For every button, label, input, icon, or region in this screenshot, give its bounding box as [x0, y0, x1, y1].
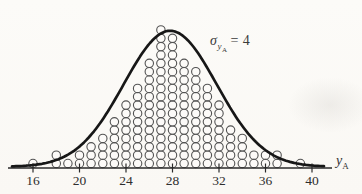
data-point-circle	[145, 134, 153, 142]
data-point-circle	[180, 93, 188, 101]
data-point-circle	[192, 151, 200, 159]
data-point-circle	[180, 101, 188, 109]
data-point-circle	[192, 109, 200, 117]
data-point-circle	[203, 93, 211, 101]
data-point-circle	[192, 118, 200, 126]
data-point-circle	[145, 68, 153, 76]
data-point-circle	[157, 126, 165, 134]
data-point-circle	[122, 118, 130, 126]
data-point-circle	[180, 134, 188, 142]
data-point-circle	[168, 93, 176, 101]
data-point-circle	[122, 101, 130, 109]
data-point-circle	[250, 159, 258, 167]
data-point-circle	[168, 34, 176, 42]
data-point-circle	[157, 59, 165, 67]
data-point-circle	[180, 143, 188, 151]
data-point-circle	[157, 42, 165, 50]
data-point-circle	[168, 68, 176, 76]
x-tick-label: 24	[119, 173, 133, 188]
data-point-circle	[99, 143, 107, 151]
sigma-annotation: σyA= 4	[210, 33, 250, 54]
data-point-circle	[64, 159, 72, 167]
data-point-circle	[157, 159, 165, 167]
data-point-circle	[99, 151, 107, 159]
data-point-circle	[157, 51, 165, 59]
data-point-circle	[145, 151, 153, 159]
data-point-circle	[122, 126, 130, 134]
data-point-circle	[238, 134, 246, 142]
data-point-circle	[122, 134, 130, 142]
data-point-circle	[133, 118, 141, 126]
data-point-circle	[168, 101, 176, 109]
data-point-circle	[157, 84, 165, 92]
data-point-circle	[203, 159, 211, 167]
data-point-circle	[157, 76, 165, 84]
data-point-circle	[157, 118, 165, 126]
data-point-circle	[87, 151, 95, 159]
data-point-circle	[180, 126, 188, 134]
data-point-circle	[133, 159, 141, 167]
data-point-circle	[250, 151, 258, 159]
data-point-circle	[168, 51, 176, 59]
data-point-circle	[133, 143, 141, 151]
data-point-circle	[226, 159, 234, 167]
data-point-circle	[203, 118, 211, 126]
data-point-circle	[238, 151, 246, 159]
x-tick-label: 40	[305, 173, 319, 188]
data-point-circle	[192, 84, 200, 92]
data-point-circle	[145, 101, 153, 109]
data-point-circle	[215, 101, 223, 109]
data-point-circle	[157, 101, 165, 109]
data-point-circle	[157, 134, 165, 142]
data-point-circle	[122, 143, 130, 151]
data-point-circle	[192, 143, 200, 151]
data-point-circle	[203, 151, 211, 159]
data-point-circle	[215, 143, 223, 151]
x-tick-label: 36	[259, 173, 273, 188]
x-tick-label: 20	[73, 173, 87, 188]
data-point-circle	[203, 84, 211, 92]
data-point-circle	[145, 143, 153, 151]
data-point-circle	[215, 151, 223, 159]
x-tick-label: 28	[166, 173, 180, 188]
data-point-circle	[110, 126, 118, 134]
data-point-circle	[87, 159, 95, 167]
data-point-circle	[122, 151, 130, 159]
data-point-circle	[203, 101, 211, 109]
data-point-circle	[273, 159, 281, 167]
data-point-circle	[180, 151, 188, 159]
data-point-circle	[110, 143, 118, 151]
data-point-circle	[145, 109, 153, 117]
data-point-circle	[145, 59, 153, 67]
data-point-circle	[168, 143, 176, 151]
data-point-circle	[157, 93, 165, 101]
data-point-circle	[180, 68, 188, 76]
data-point-circle	[203, 109, 211, 117]
data-point-circle	[215, 109, 223, 117]
data-point-circle	[145, 159, 153, 167]
data-point-circle	[133, 84, 141, 92]
data-point-circle	[215, 134, 223, 142]
data-point-circle	[215, 118, 223, 126]
data-point-circle	[168, 118, 176, 126]
data-point-circle	[133, 109, 141, 117]
x-axis-label: yA	[336, 153, 349, 171]
data-point-circle	[133, 93, 141, 101]
data-point-circle	[133, 101, 141, 109]
data-point-circle	[192, 159, 200, 167]
data-point-circle	[168, 76, 176, 84]
data-point-circle	[203, 126, 211, 134]
data-point-circle	[145, 76, 153, 84]
textbook-figure-normal-distribution: 16202428323640 σyA= 4 yA	[0, 0, 362, 194]
data-point-circle	[99, 134, 107, 142]
data-point-circle	[180, 84, 188, 92]
data-point-circle	[145, 93, 153, 101]
data-point-circle	[145, 126, 153, 134]
data-point-circle	[168, 151, 176, 159]
data-point-circle	[168, 134, 176, 142]
data-point-circle	[168, 109, 176, 117]
data-point-circle	[226, 126, 234, 134]
sigma-value: = 4	[227, 33, 250, 48]
data-point-circle	[238, 159, 246, 167]
data-point-circle	[215, 126, 223, 134]
